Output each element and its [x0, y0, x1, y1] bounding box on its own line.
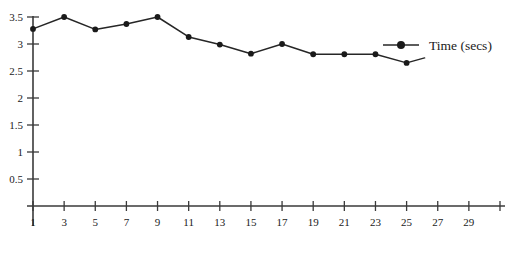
- x-tick-label: 7: [124, 216, 130, 228]
- data-point-marker[interactable]: [279, 41, 285, 47]
- legend-marker-icon: [397, 41, 405, 49]
- data-point-marker[interactable]: [92, 27, 98, 33]
- data-point-marker[interactable]: [217, 42, 223, 48]
- x-tick-label: 1: [30, 216, 36, 228]
- x-tick-label: 11: [183, 216, 194, 228]
- data-point-marker[interactable]: [124, 21, 130, 27]
- x-tick-label: 29: [463, 216, 475, 228]
- data-point-marker[interactable]: [248, 51, 254, 57]
- y-tick-label: 3: [18, 38, 24, 50]
- x-tick-label: 15: [245, 216, 257, 228]
- data-point-marker[interactable]: [186, 34, 192, 40]
- data-point-marker[interactable]: [341, 51, 347, 57]
- y-tick-label: 2.5: [9, 65, 23, 77]
- x-tick-label: 21: [339, 216, 350, 228]
- x-tick-label: 9: [155, 216, 161, 228]
- x-tick-label: 19: [308, 216, 320, 228]
- data-point-marker[interactable]: [61, 14, 67, 20]
- x-tick-label: 3: [61, 216, 67, 228]
- x-tick-label: 27: [432, 216, 444, 228]
- data-point-marker[interactable]: [155, 14, 161, 20]
- y-tick-label: 0.5: [9, 173, 23, 185]
- x-tick-label: 5: [93, 216, 99, 228]
- x-tick-label: 25: [401, 216, 413, 228]
- legend-label-time-secs: Time (secs): [429, 38, 492, 53]
- data-point-marker[interactable]: [310, 51, 316, 57]
- data-point-marker[interactable]: [373, 51, 379, 57]
- x-tick-label: 17: [277, 216, 289, 228]
- x-tick-label: 23: [370, 216, 382, 228]
- data-point-marker[interactable]: [404, 60, 410, 66]
- x-tick-label: 13: [214, 216, 226, 228]
- data-point-marker[interactable]: [30, 26, 36, 32]
- y-tick-label: 1: [18, 146, 24, 158]
- y-tick-label: 3.5: [9, 11, 23, 23]
- y-tick-label: 2: [18, 92, 24, 104]
- chart-page: 0.511.522.533.5 135791113151719212325272…: [0, 0, 513, 269]
- y-tick-label: 1.5: [9, 119, 23, 131]
- line-chart: 0.511.522.533.5 135791113151719212325272…: [0, 0, 513, 269]
